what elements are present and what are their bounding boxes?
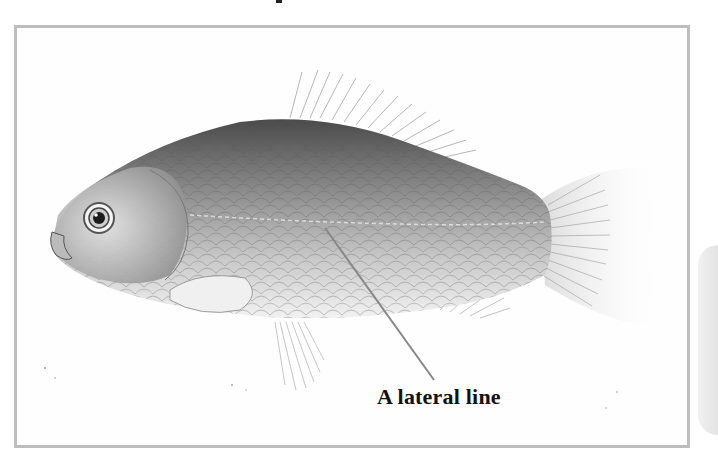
eye [84,203,114,233]
pelvic-fin [275,322,324,390]
tail-fin [540,168,660,330]
paper-specks [44,367,618,409]
annotation-label-lateral-line: A lateral line [377,384,501,410]
gill-cover [52,167,187,284]
